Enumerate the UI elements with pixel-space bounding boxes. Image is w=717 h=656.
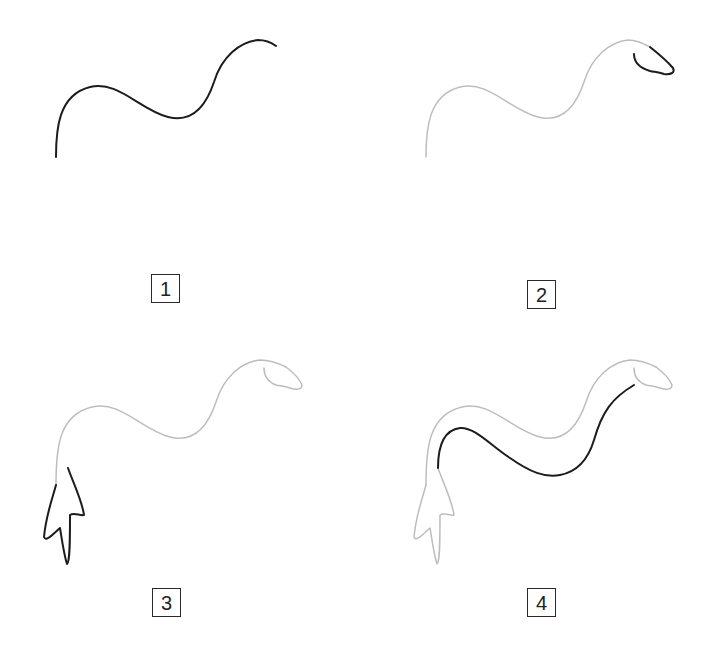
step-label-4: 4	[527, 588, 556, 617]
belly-line	[438, 385, 634, 476]
back-line	[426, 360, 656, 485]
step-label-3: 3	[152, 588, 181, 617]
step-1-drawing	[56, 40, 276, 157]
step-3-drawing	[44, 360, 302, 564]
tail-fin	[414, 468, 454, 564]
step-number: 3	[161, 593, 172, 613]
head-outline	[634, 47, 674, 74]
step-label-1: 1	[151, 274, 180, 303]
back-line	[426, 40, 650, 157]
back-line	[56, 40, 276, 157]
step-2-drawing	[426, 40, 674, 157]
back-line	[56, 360, 286, 485]
head-outline	[264, 367, 302, 389]
step-label-2: 2	[527, 280, 556, 309]
step-number: 1	[160, 279, 171, 299]
tail-fin	[44, 468, 84, 564]
head-outline	[634, 367, 672, 389]
step-4-drawing	[414, 360, 672, 564]
step-number: 4	[536, 593, 547, 613]
step-number: 2	[536, 285, 547, 305]
step-drawings	[0, 0, 717, 656]
